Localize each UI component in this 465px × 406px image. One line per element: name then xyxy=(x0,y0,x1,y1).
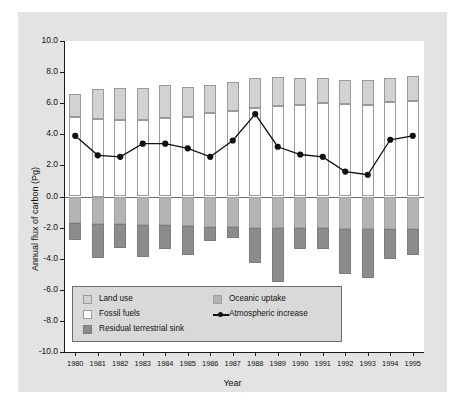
line-marker xyxy=(297,151,303,157)
x-axis-tick xyxy=(345,352,346,356)
legend-swatch-dark-grey-square xyxy=(83,325,92,334)
legend-dot-icon xyxy=(218,312,223,317)
x-axis-tick xyxy=(278,352,279,356)
y-axis-tick xyxy=(60,228,64,229)
y-axis-title: Annual flux of carbon (Pg) xyxy=(30,166,40,270)
x-axis-tick xyxy=(120,352,121,356)
x-axis-tick xyxy=(188,352,189,356)
x-axis-tick xyxy=(210,352,211,356)
line-marker xyxy=(185,145,191,151)
legend-label: Fossil fuels xyxy=(99,309,140,318)
y-axis-tick-label: -6.0 xyxy=(20,284,58,294)
line-marker xyxy=(72,133,78,139)
legend-swatch-white-square xyxy=(83,310,92,319)
y-axis-tick-label: -10.0 xyxy=(20,346,58,356)
legend-label: Oceanic uptake xyxy=(229,294,286,303)
line-marker xyxy=(207,154,213,160)
x-axis-tick xyxy=(75,352,76,356)
line-marker xyxy=(387,137,393,143)
y-axis-tick xyxy=(60,165,64,166)
line-marker xyxy=(252,111,258,117)
x-axis-tick xyxy=(165,352,166,356)
x-axis-tick xyxy=(368,352,369,356)
figure-panel: 10.08.06.04.02.00.0-2.0-4.0-6.0-8.0-10.0… xyxy=(18,12,447,392)
y-axis-tick xyxy=(60,197,64,198)
chart-legend: Land useFossil fuelsResidual terrestrial… xyxy=(72,286,342,342)
x-axis-title: Year xyxy=(18,378,447,388)
x-axis-tick xyxy=(413,352,414,356)
legend-label: Atmospheric increase xyxy=(229,309,308,318)
legend-label: Residual terrestrial sink xyxy=(99,324,184,333)
x-axis-tick xyxy=(300,352,301,356)
legend-swatch-light-grey-square xyxy=(83,295,92,304)
line-marker xyxy=(320,154,326,160)
y-axis-tick xyxy=(60,352,64,353)
legend-label: Land use xyxy=(99,294,133,303)
line-marker xyxy=(410,133,416,139)
y-axis-tick xyxy=(60,103,64,104)
line-path xyxy=(75,114,413,175)
y-axis-tick-label: 6.0 xyxy=(20,97,58,107)
line-marker xyxy=(275,144,281,150)
y-axis-tick xyxy=(60,41,64,42)
y-axis-line xyxy=(64,41,65,352)
x-axis-tick xyxy=(143,352,144,356)
y-axis-tick-label: 4.0 xyxy=(20,128,58,138)
line-marker xyxy=(117,154,123,160)
x-axis-tick-label: 1995 xyxy=(399,359,427,368)
y-axis-tick xyxy=(60,259,64,260)
x-axis-tick xyxy=(323,352,324,356)
y-axis-tick-label: 10.0 xyxy=(20,35,58,45)
x-axis-tick xyxy=(255,352,256,356)
x-axis-line xyxy=(64,352,424,353)
y-axis-tick xyxy=(60,134,64,135)
y-axis-tick xyxy=(60,321,64,322)
y-axis-tick-label: 8.0 xyxy=(20,66,58,76)
x-axis-tick xyxy=(233,352,234,356)
line-marker xyxy=(365,172,371,178)
y-axis-tick xyxy=(60,290,64,291)
line-marker xyxy=(162,141,168,147)
legend-swatch-mid-grey-square xyxy=(213,295,222,304)
x-axis-tick xyxy=(98,352,99,356)
line-marker xyxy=(230,137,236,143)
x-axis-tick xyxy=(390,352,391,356)
y-axis-tick-label: -8.0 xyxy=(20,315,58,325)
line-marker xyxy=(140,141,146,147)
line-marker xyxy=(342,169,348,175)
y-axis-tick xyxy=(60,72,64,73)
line-marker xyxy=(95,152,101,158)
